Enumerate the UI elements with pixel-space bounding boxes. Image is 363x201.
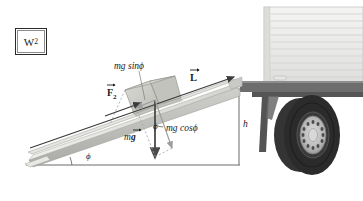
- label-force-F2: F2: [107, 88, 117, 101]
- panel-label-letter: W: [24, 36, 35, 48]
- label-angle-phi-component: ϕ: [153, 122, 158, 131]
- label-weight-mg: mg: [124, 133, 136, 143]
- truck-bed-edge-highlight: [240, 81, 363, 83]
- panel-label-box: W2: [15, 28, 47, 55]
- truck-rear-wheels: [274, 95, 340, 175]
- wheel-hub-center: [309, 129, 318, 142]
- truck-bracket: [266, 96, 279, 120]
- label-angle-phi-incline: ϕ: [86, 152, 91, 161]
- label-weight-m: m: [124, 132, 131, 142]
- truck-box-body: [264, 7, 363, 82]
- label-weight-g: g: [131, 132, 136, 142]
- angle-arc-base: [70, 157, 72, 165]
- figure-scene: [0, 0, 363, 201]
- truck-group: [240, 7, 363, 175]
- label-force-F-subscript: 2: [113, 93, 117, 101]
- truck-door-placard: [274, 76, 286, 80]
- label-length-L: L: [190, 73, 197, 84]
- physics-figure-ramp-truck: W2 mg sinϕ F2 L mg cosϕ mg ϕ ϕ h: [0, 0, 363, 201]
- panel-label-text: W2: [16, 29, 46, 54]
- label-mg-cos-phi: mg cosϕ: [166, 124, 198, 134]
- label-mg-sin-phi: mg sinϕ: [114, 62, 144, 72]
- truck-door-frame-post: [264, 7, 270, 82]
- panel-label-subscript: 2: [34, 37, 38, 46]
- label-height-h: h: [243, 120, 248, 130]
- truck-bed-band: [240, 82, 363, 92]
